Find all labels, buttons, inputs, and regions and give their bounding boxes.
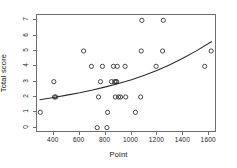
x-tick-label: 400 <box>47 136 58 143</box>
x-tick-mark <box>156 132 157 135</box>
data-point <box>96 95 100 99</box>
data-point <box>161 49 165 53</box>
plot-area <box>37 15 215 131</box>
y-tick-label: 5 <box>22 48 29 52</box>
y-tick-label: 2 <box>22 94 29 98</box>
data-point <box>140 18 144 22</box>
x-tick-mark <box>208 132 209 135</box>
data-point <box>161 18 165 22</box>
chart-root: Total score Point 01234567 4006008001000… <box>0 0 237 168</box>
x-tick-label: 1600 <box>201 136 216 143</box>
x-tick-mark <box>105 132 106 135</box>
x-tick-mark <box>79 132 80 135</box>
y-axis-title: Total score <box>0 54 8 92</box>
data-point <box>52 80 56 84</box>
data-point <box>209 49 213 53</box>
data-point <box>133 110 137 114</box>
data-point <box>105 126 109 130</box>
x-tick-mark <box>182 132 183 135</box>
x-tick-mark <box>53 132 54 135</box>
data-point <box>38 110 42 114</box>
y-tick-label: 7 <box>22 18 29 22</box>
y-tick-label: 3 <box>22 79 29 83</box>
data-point <box>105 110 109 114</box>
scatter-plot-canvas <box>37 15 215 131</box>
data-point <box>98 80 102 84</box>
x-tick-label: 1200 <box>149 136 164 143</box>
y-tick-label: 1 <box>22 109 29 113</box>
data-point <box>123 64 127 68</box>
x-tick-label: 600 <box>73 136 84 143</box>
x-tick-label: 1400 <box>175 136 190 143</box>
x-tick-label: 1000 <box>123 136 138 143</box>
x-tick-mark <box>131 132 132 135</box>
data-point <box>95 126 99 130</box>
data-point <box>139 49 143 53</box>
data-point <box>89 64 93 68</box>
data-point <box>82 49 86 53</box>
data-points <box>38 18 213 129</box>
x-axis-title: Point <box>0 150 237 159</box>
data-point <box>100 64 104 68</box>
data-point <box>139 95 143 99</box>
data-point <box>124 95 128 99</box>
x-tick-label: 800 <box>99 136 110 143</box>
data-point <box>203 64 207 68</box>
fitted-curve <box>40 42 212 100</box>
y-tick-label: 6 <box>22 33 29 37</box>
plot-frame <box>36 14 216 132</box>
data-point <box>154 64 158 68</box>
y-tick-label: 0 <box>22 125 29 129</box>
y-tick-label: 4 <box>22 64 29 68</box>
